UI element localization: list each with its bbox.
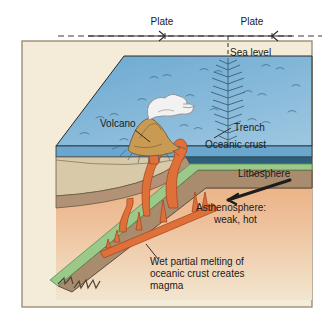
- label-magma-line3: magma: [150, 280, 184, 291]
- label-magma-line1: Wet partial melting of: [150, 256, 244, 267]
- label-volcano: Volcano: [100, 118, 136, 129]
- plate-motion-guide: [58, 31, 322, 41]
- label-magma-line2: oceanic crust creates: [150, 268, 245, 279]
- geology-block-diagram: Plate Plate: [0, 0, 334, 332]
- oceanic-crust-layer: [186, 157, 312, 164]
- label-trench: Trench: [234, 122, 265, 133]
- label-plate-right: Plate: [241, 16, 264, 27]
- diagram-canvas: Plate Plate: [0, 0, 334, 332]
- label-plate-left: Plate: [151, 16, 174, 27]
- label-asthenosphere-line2: weak, hot: [213, 214, 257, 225]
- label-asthenosphere-line1: Asthenosphere:: [196, 202, 266, 213]
- label-oceanic-crust: Oceanic crust: [205, 139, 266, 150]
- label-sea-level: Sea level: [230, 47, 271, 58]
- label-lithosphere: Lithosphere: [238, 168, 291, 179]
